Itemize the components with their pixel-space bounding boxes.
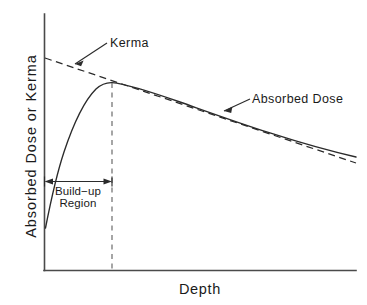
kerma-leader — [75, 43, 107, 66]
kerma-annotation-label: Kerma — [110, 36, 149, 50]
y-axis-label: Absorbed Dose or Kerma — [23, 21, 39, 271]
x-axis-label: Depth — [44, 281, 356, 297]
buildup-region-label-line-2: Region — [44, 198, 112, 210]
chart-plot-area — [0, 0, 367, 305]
absorbed-dose-annotation-label: Absorbed Dose — [252, 92, 343, 106]
kerma-line — [45, 58, 356, 163]
figure-container: Absorbed Dose or Kerma Depth Kerma Absor… — [0, 0, 367, 305]
absorbed-dose-leader — [224, 99, 250, 113]
buildup-region-annotation-label: Build−up Region — [44, 186, 112, 210]
